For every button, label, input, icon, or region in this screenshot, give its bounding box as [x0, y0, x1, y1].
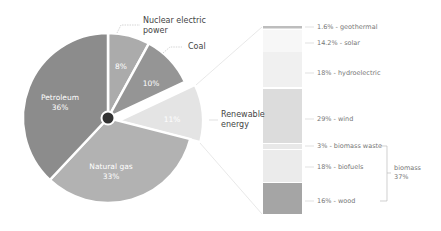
bar-biomass-waste	[263, 144, 302, 149]
energy-consumption-chart: Nuclear electric power Coal Renewable en…	[0, 0, 441, 231]
biomass-group-name: biomass	[394, 164, 421, 173]
leader-coal	[163, 47, 182, 53]
bar-biofuels	[263, 150, 302, 182]
label-nuclear-line1: Nuclear electric	[143, 16, 206, 26]
label-nuclear-line2: power	[143, 26, 206, 36]
label-renewable: Renewable energy	[221, 110, 265, 130]
bar-label-wood: 16% - wood	[317, 197, 355, 205]
connector-top	[196, 27, 262, 85]
label-petroleum: Petroleum 36%	[41, 93, 79, 113]
leader-nuclear	[117, 25, 140, 33]
label-nuclear-value: 8%	[115, 62, 127, 72]
bar-label-wind: 29% - wind	[317, 115, 353, 123]
connector-bottom	[200, 143, 262, 214]
label-natural-gas-value: 33%	[89, 172, 132, 182]
bar-label-biofuels: 18% - biofuels	[317, 163, 363, 171]
label-nuclear: Nuclear electric power	[143, 16, 206, 36]
bar-label-solar: 14.2% - solar	[317, 39, 360, 47]
label-coal: Coal	[188, 42, 206, 52]
bar-label-hydroelectric: 18% - hydroelectric	[317, 69, 381, 77]
bar-wood	[263, 183, 302, 214]
bar-solar	[263, 30, 302, 52]
bar-wind	[263, 89, 302, 143]
pie-center-dot	[102, 112, 115, 125]
label-petroleum-value: 36%	[41, 103, 79, 113]
label-renewable-line2: energy	[221, 120, 265, 130]
biomass-group-value: 37%	[394, 173, 421, 182]
biomass-group-label: biomass 37%	[394, 164, 421, 182]
bar-geothermal	[263, 26, 302, 29]
bar-label-geothermal: 1.6% - geothermal	[317, 23, 377, 31]
bar-hydroelectric	[263, 52, 302, 87]
biomass-bracket	[380, 146, 387, 201]
label-renewable-value: 11%	[164, 115, 181, 125]
label-coal-value: 10%	[143, 79, 160, 89]
label-renewable-line1: Renewable	[221, 110, 265, 120]
label-natural-gas: Natural gas 33%	[89, 162, 132, 182]
bar-label-ticks	[305, 27, 314, 201]
bar-label-biomass-waste: 3% - biomass waste	[317, 142, 382, 150]
label-natural-gas-name: Natural gas	[89, 162, 132, 172]
label-petroleum-name: Petroleum	[41, 93, 79, 103]
